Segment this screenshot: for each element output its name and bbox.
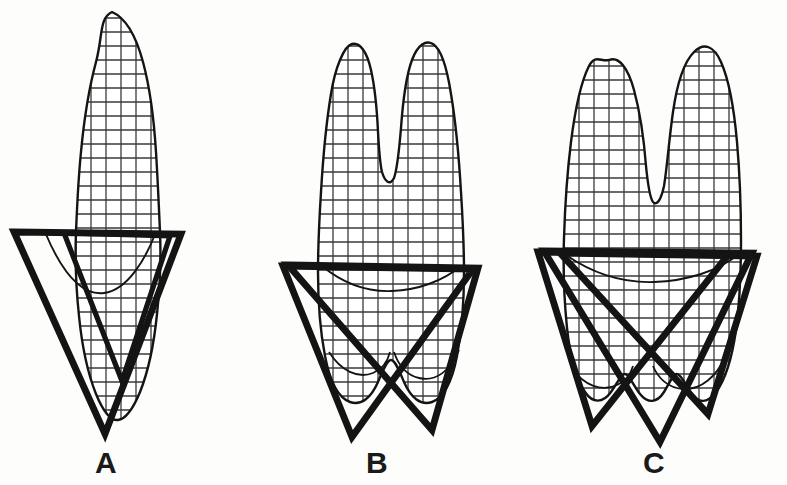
- figure-panel-b: [283, 0, 480, 485]
- figure-label-c: C: [643, 448, 665, 478]
- figure-panel-a: [14, 0, 181, 485]
- figure-panel-c: [538, 0, 760, 485]
- figure-page: A B C: [0, 0, 787, 485]
- figure-label-a: A: [95, 448, 117, 478]
- dental-figure-svg: [0, 0, 787, 485]
- grid-mesh-b: [300, 0, 480, 485]
- grid-mesh-a: [60, 0, 180, 485]
- grid-mesh-c: [550, 0, 760, 485]
- figure-label-b: B: [366, 448, 388, 478]
